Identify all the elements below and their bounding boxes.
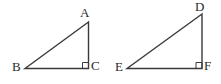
vertex-label-d: D [195, 0, 204, 13]
right-angle-marker-f-inner [196, 63, 202, 69]
vertex-label-e: E [115, 60, 123, 73]
right-angle-marker-c [83, 63, 89, 69]
right-angle-marker-c-inner [83, 63, 89, 69]
vertex-label-f: F [204, 59, 211, 72]
triangle-def-outline [127, 14, 202, 69]
vertex-label-b: B [12, 60, 21, 73]
geometry-figure: A B C D E F [0, 0, 221, 84]
triangles-canvas [0, 0, 221, 84]
vertex-label-c: C [91, 59, 100, 72]
vertex-label-a: A [80, 6, 89, 19]
triangle-def-group [127, 14, 202, 69]
right-angle-marker-f [196, 63, 202, 69]
triangle-abc-outline [25, 22, 89, 69]
triangle-abc-group [25, 22, 89, 69]
